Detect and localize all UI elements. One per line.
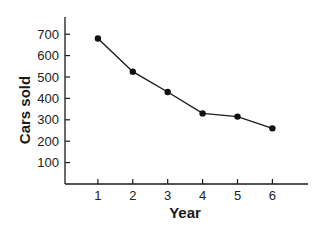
data-point bbox=[165, 89, 171, 95]
data-point bbox=[269, 125, 275, 131]
line-chart: 100200300400500600700 123456 Cars sold Y… bbox=[0, 0, 325, 229]
x-tick-label: 1 bbox=[94, 188, 101, 203]
data-point bbox=[130, 68, 136, 74]
x-axis-title: Year bbox=[169, 204, 201, 221]
x-axis-ticks: 123456 bbox=[94, 179, 276, 203]
data-series bbox=[95, 35, 276, 131]
x-tick-label: 3 bbox=[164, 188, 171, 203]
y-tick-label: 700 bbox=[37, 27, 59, 42]
y-tick-label: 300 bbox=[37, 112, 59, 127]
x-tick-label: 2 bbox=[129, 188, 136, 203]
y-axis-title: Cars sold bbox=[16, 76, 33, 144]
data-point bbox=[234, 113, 240, 119]
data-point bbox=[95, 35, 101, 41]
x-tick-label: 5 bbox=[234, 188, 241, 203]
series-line bbox=[98, 38, 273, 128]
x-tick-label: 4 bbox=[199, 188, 206, 203]
y-tick-label: 400 bbox=[37, 91, 59, 106]
data-point bbox=[199, 110, 205, 116]
y-tick-label: 600 bbox=[37, 48, 59, 63]
x-tick-label: 6 bbox=[269, 188, 276, 203]
y-tick-label: 100 bbox=[37, 155, 59, 170]
y-tick-label: 500 bbox=[37, 70, 59, 85]
y-tick-label: 200 bbox=[37, 134, 59, 149]
